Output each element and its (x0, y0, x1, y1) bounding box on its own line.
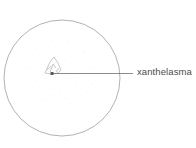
figure-root: xanthelasma (0, 0, 196, 148)
leader-anchor-dot (51, 72, 54, 75)
label-xanthelasma: xanthelasma (137, 66, 192, 77)
